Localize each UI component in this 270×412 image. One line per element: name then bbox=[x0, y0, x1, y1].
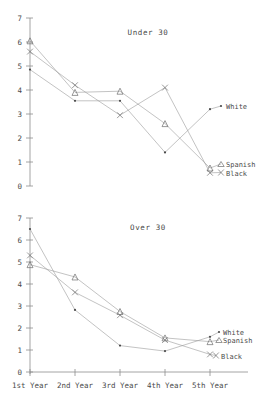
y-tick-label: 4 bbox=[17, 86, 22, 95]
data-point-dot-icon bbox=[29, 228, 31, 230]
y-tick-label: 6 bbox=[17, 38, 22, 47]
series-spanish-over-30 bbox=[27, 262, 219, 345]
y-axis-over-30: 7 6 5 4 3 2 1 0 bbox=[17, 214, 33, 377]
y-axis-under-30: 7 6 5 4 3 2 1 0 bbox=[17, 14, 33, 191]
data-point-x-icon bbox=[72, 82, 78, 88]
y-tick-label: 5 bbox=[17, 62, 22, 71]
y-tick-label: 2 bbox=[17, 134, 22, 143]
plot-area-under-30: 7 6 5 4 3 2 1 0 Under 30 White Spanish bbox=[0, 0, 270, 206]
y-tick-label: 0 bbox=[17, 182, 22, 191]
x-tick-label: 3rd Year bbox=[102, 381, 139, 390]
y-tick-label: 5 bbox=[17, 258, 22, 267]
y-tick-label: 7 bbox=[17, 214, 22, 223]
x-tick-label: 2nd Year bbox=[57, 381, 94, 390]
data-point-x-icon bbox=[117, 112, 123, 118]
y-tick-label: 1 bbox=[17, 346, 22, 355]
data-point-dot-icon bbox=[29, 69, 31, 71]
data-point-dot-icon bbox=[209, 108, 211, 110]
y-tick-label: 0 bbox=[17, 368, 22, 377]
chart-title-over-30: Over 30 bbox=[130, 223, 166, 232]
y-tick-label: 4 bbox=[17, 280, 22, 289]
x-tick-label: 4th Year bbox=[147, 381, 184, 390]
y-tick-label: 7 bbox=[17, 14, 22, 23]
data-point-x-icon bbox=[117, 312, 123, 318]
plot-area-over-30: 7 6 5 4 3 2 1 0 1st Year 2nd Year 3rd Ye… bbox=[0, 206, 270, 412]
chart-title-under-30: Under 30 bbox=[128, 28, 169, 37]
y-tick-label: 6 bbox=[17, 236, 22, 245]
data-point-dot-icon bbox=[209, 336, 211, 338]
series-white-over-30 bbox=[29, 228, 219, 352]
data-point-dot-icon bbox=[74, 309, 76, 311]
data-point-dot-icon bbox=[74, 100, 76, 102]
legend-white-marker-icon bbox=[218, 331, 220, 333]
x-tick-label: 5th Year bbox=[192, 381, 229, 390]
legend-black-label: Black bbox=[226, 170, 248, 178]
y-tick-label: 2 bbox=[17, 324, 22, 333]
data-point-dot-icon bbox=[164, 151, 166, 153]
legend-white-marker-icon bbox=[220, 105, 222, 107]
data-point-x-icon bbox=[162, 85, 168, 91]
y-tick-label: 3 bbox=[17, 110, 22, 119]
series-black-under-30 bbox=[27, 49, 221, 176]
legend-over-30: White Spanish Black bbox=[213, 329, 252, 361]
x-axis-over-30: 1st Year 2nd Year 3rd Year 4th Year 5th … bbox=[12, 369, 248, 390]
series-white-under-30 bbox=[29, 69, 221, 154]
legend-white-label: White bbox=[226, 103, 247, 111]
y-tick-label: 1 bbox=[17, 158, 22, 167]
x-tick-label: 1st Year bbox=[12, 381, 49, 390]
legend-black-marker-icon bbox=[213, 353, 219, 359]
data-point-dot-icon bbox=[164, 350, 166, 352]
series-spanish-under-30 bbox=[27, 38, 221, 171]
data-point-x-icon bbox=[72, 289, 78, 295]
legend-spanish-label: Spanish bbox=[223, 337, 253, 345]
data-point-dot-icon bbox=[119, 100, 121, 102]
series-black-over-30 bbox=[27, 253, 216, 358]
legend-black-label: Black bbox=[221, 353, 243, 361]
legend-under-30: White Spanish Black bbox=[218, 103, 256, 178]
data-point-x-icon bbox=[207, 352, 213, 358]
y-tick-label: 3 bbox=[17, 302, 22, 311]
chart-over-30: 7 6 5 4 3 2 1 0 1st Year 2nd Year 3rd Ye… bbox=[0, 206, 270, 412]
legend-spanish-label: Spanish bbox=[226, 161, 256, 169]
legend-white-label: White bbox=[223, 329, 244, 337]
chart-under-30: 7 6 5 4 3 2 1 0 Under 30 White Spanish bbox=[0, 0, 270, 206]
data-point-dot-icon bbox=[119, 345, 121, 347]
